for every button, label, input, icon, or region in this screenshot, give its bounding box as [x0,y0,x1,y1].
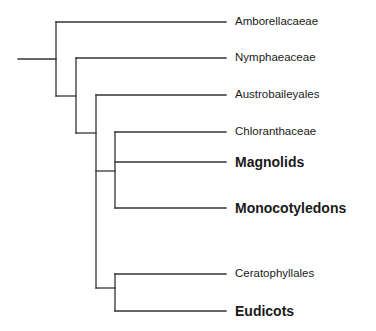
taxon-label-chloranthaceae: Chloranthaceae [235,126,316,138]
taxon-label-austrobaileyales: Austrobaileyales [235,89,319,101]
taxon-label-ceratophyllales: Ceratophyllales [235,268,314,280]
taxon-label-amborellacaeae: Amborellacaeae [235,16,318,28]
taxon-label-nymphaeaceae: Nymphaeaceae [235,52,316,64]
taxon-label-monocotyledons: Monocotyledons [235,201,346,215]
taxon-label-magnolids: Magnolids [235,155,304,169]
taxon-label-eudicots: Eudicots [235,304,294,318]
phylogenetic-tree [0,0,376,331]
